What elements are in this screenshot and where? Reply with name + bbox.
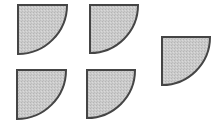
quarter-circle-1 xyxy=(18,5,67,54)
quarter-circle-3 xyxy=(17,70,66,119)
quarter-circle-5 xyxy=(162,37,210,85)
quarter-circle-4 xyxy=(87,70,135,118)
quarter-circle-group xyxy=(17,5,210,119)
figure-canvas xyxy=(0,0,221,131)
quarter-circle-2 xyxy=(90,5,138,53)
